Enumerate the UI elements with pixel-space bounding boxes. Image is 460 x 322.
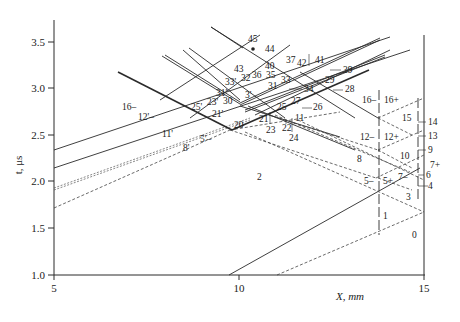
- label-35: 35: [266, 70, 276, 80]
- label-36: 36: [252, 70, 262, 80]
- label-25prime: 25': [191, 102, 203, 112]
- y-tick-3.5: 3.5: [31, 36, 45, 48]
- label-23prime: 23': [207, 97, 219, 107]
- label-42: 42: [297, 58, 307, 68]
- y-tick-3.0: 3.0: [31, 82, 45, 94]
- label-26: 26: [313, 102, 323, 112]
- axes: [48, 20, 425, 280]
- label-31: 31: [268, 81, 278, 91]
- label-33: 33: [281, 75, 291, 85]
- label-10: 10: [400, 151, 410, 161]
- label-7-minus: 7–: [398, 172, 408, 182]
- label-16-plus: 16+: [384, 95, 399, 105]
- label-21: 21: [259, 114, 269, 124]
- y-tick-2.5: 2.5: [31, 129, 45, 141]
- label-41: 41: [315, 55, 325, 65]
- label-29: 29: [325, 75, 335, 85]
- label-9: 9: [428, 145, 433, 155]
- label-24: 24: [289, 133, 299, 143]
- label-27: 27: [291, 96, 301, 106]
- x-tick-15: 15: [419, 282, 431, 294]
- label-8: 8: [357, 154, 362, 164]
- label-15: 15: [402, 113, 412, 123]
- y-tick-2.0: 2.0: [31, 175, 45, 187]
- label-16-minus-left: 16–: [122, 102, 137, 112]
- label-3: 3: [406, 192, 411, 202]
- y-tick-1.0: 1.0: [31, 269, 45, 281]
- x-tick-10: 10: [234, 282, 246, 294]
- label-33prime: 33': [225, 77, 237, 87]
- label-32: 32: [241, 73, 251, 83]
- label-12prime-minus: 12'–: [138, 112, 154, 122]
- y-axis-title: t, μs: [12, 156, 24, 175]
- label-39: 39: [343, 65, 353, 75]
- label-34: 34: [304, 84, 314, 94]
- label-43: 43: [234, 64, 244, 74]
- label-0: 0: [412, 230, 417, 240]
- x-axis-title: X, mm: [335, 290, 364, 302]
- label-40: 40: [265, 61, 275, 71]
- label-3prime: 3': [245, 90, 252, 100]
- intersection-point-45: [251, 47, 255, 51]
- label-25: 25: [277, 102, 287, 112]
- label-5-minus: 5–: [364, 176, 374, 186]
- label-1: 1: [383, 211, 388, 221]
- x-tick-5: 5: [51, 282, 57, 294]
- label-37: 37: [286, 55, 296, 65]
- y-tick-1.5: 1.5: [31, 222, 45, 234]
- label-11prime: 11': [162, 129, 173, 139]
- y-tick-labels: 3.5 3.0 2.5 2.0 1.5 1.0: [31, 36, 45, 281]
- label-16-minus: 16–: [362, 95, 377, 105]
- label-23: 23: [266, 125, 276, 135]
- label-12-plus: 12+: [384, 132, 399, 142]
- label-14: 14: [428, 117, 438, 127]
- label-12-minus: 12–: [360, 132, 375, 142]
- label-8prime: 8': [183, 143, 190, 153]
- label-5-plus: 5+: [383, 176, 393, 186]
- region-labels: 0 1 2 3 4 5– 5+ 5'– 6 7– 7+ 8 8' 9 10 11…: [122, 34, 440, 240]
- label-7-plus: 7+: [430, 160, 440, 170]
- label-31prime: 31': [216, 88, 228, 98]
- label-11: 11: [295, 113, 304, 123]
- label-20: 20: [234, 120, 244, 130]
- label-28: 28: [345, 84, 355, 94]
- x-tick-labels: 5 10 15: [51, 282, 430, 294]
- label-13: 13: [428, 131, 438, 141]
- label-6: 6: [426, 170, 431, 180]
- label-22: 22: [282, 123, 292, 133]
- xt-diagram-chart: 3.5 3.0 2.5 2.0 1.5 1.0 5 10 15 X, mm t,…: [0, 0, 460, 322]
- label-4: 4: [428, 181, 433, 191]
- label-5prime-minus: 5'–: [200, 134, 211, 144]
- label-21prime: 21': [212, 109, 224, 119]
- label-45: 45: [248, 34, 258, 44]
- label-44: 44: [265, 44, 275, 54]
- label-2: 2: [257, 172, 262, 182]
